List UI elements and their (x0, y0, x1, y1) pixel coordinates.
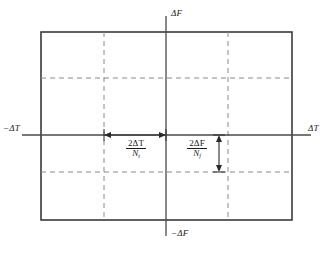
fraction-2-delta-f-over-nf: 2ΔF Nf (187, 139, 206, 159)
fraction-2-delta-t-over-nt: 2ΔT Nt (126, 139, 146, 159)
annotation-vertical-cell-size: 2ΔF Nf (178, 139, 216, 159)
diagram-canvas: ΔF −ΔF −ΔT ΔT 2ΔT Nt 2ΔF Nf (0, 0, 330, 255)
axis-label-delta-t-positive: ΔT (308, 123, 319, 133)
delay-doppler-grid-figure (0, 0, 330, 255)
axis-label-delta-f-negative: −ΔF (171, 228, 188, 238)
fraction-denominator: Nt (126, 149, 146, 158)
axis-label-delta-f-positive: ΔF (171, 8, 182, 18)
annotation-horizontal-cell-size: 2ΔT Nt (110, 139, 162, 159)
axis-label-delta-t-negative: −ΔT (3, 123, 20, 133)
fraction-denominator: Nf (187, 149, 206, 158)
